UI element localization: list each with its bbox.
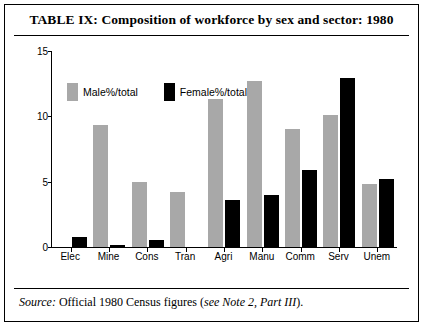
chart-bar [72, 237, 87, 247]
x-axis-tick-label: Unem [358, 251, 396, 262]
chart-bar-group [359, 51, 397, 247]
chart-bar [132, 182, 147, 247]
x-axis-tick-label: Comm [281, 251, 319, 262]
chart-bar [362, 184, 377, 247]
chart-bar [379, 179, 394, 247]
chart-bar-group [129, 51, 167, 247]
x-axis-tick-label: Serv [319, 251, 357, 262]
chart-bar [225, 200, 240, 247]
x-axis-tick-label: Mine [89, 251, 127, 262]
page-title: TABLE IX: Composition of workforce by se… [5, 12, 418, 28]
chart-bar [208, 99, 223, 247]
chart-bar [149, 240, 164, 247]
chart-bar [110, 245, 125, 247]
source-divider [14, 288, 409, 289]
chart-bar-group [90, 51, 128, 247]
title-divider [14, 35, 409, 36]
chart-plot-area: Male%/total Female%/total 051015 ElecMin… [27, 45, 402, 281]
source-prefix: Source: [19, 295, 56, 309]
y-axis-tick-mark [48, 182, 52, 183]
chart-bar [264, 195, 279, 247]
chart-bar-group [320, 51, 358, 247]
chart-bar-groups [52, 51, 397, 247]
source-text: Official 1980 Census figures ( [59, 295, 204, 309]
chart-bar-group [205, 51, 243, 247]
chart-bar-group [167, 51, 205, 247]
y-axis-tick-mark [48, 116, 52, 117]
y-axis-tick-mark [48, 247, 52, 248]
chart-bar-group [282, 51, 320, 247]
x-axis-tick-label: Agri [204, 251, 242, 262]
chart-axes: 051015 [51, 51, 397, 248]
figure-frame: TABLE IX: Composition of workforce by se… [4, 4, 419, 322]
chart-bar [302, 170, 317, 247]
chart-bar [247, 81, 262, 247]
source-italic-ref: see Note 2, Part III [204, 295, 296, 309]
chart-bar [93, 125, 108, 247]
x-axis-tick-label: Manu [243, 251, 281, 262]
y-axis-tick-mark [48, 51, 52, 52]
chart-bar [285, 129, 300, 247]
chart-bar [170, 192, 185, 247]
chart-bar-group [244, 51, 282, 247]
source-suffix: ). [296, 295, 303, 309]
chart-x-axis-labels: ElecMineConsTranAgriManuCommServUnem [51, 251, 396, 262]
chart-bar [340, 78, 355, 247]
x-axis-tick-label: Tran [166, 251, 204, 262]
source-note: Source: Official 1980 Census figures (se… [19, 295, 303, 310]
x-axis-tick-label: Cons [128, 251, 166, 262]
chart-bar [323, 115, 338, 247]
chart-bar-group [52, 51, 90, 247]
x-axis-tick-label: Elec [51, 251, 89, 262]
